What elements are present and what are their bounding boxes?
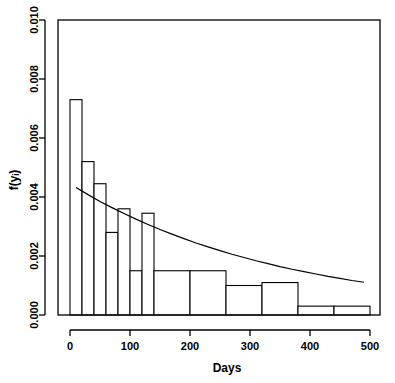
chart-canvas: 0100200300400500 0.0000.0020.0040.0060.0…: [0, 0, 395, 383]
x-axis-tick-label: 500: [361, 340, 379, 352]
x-axis-title: Days: [213, 361, 242, 375]
histogram-bar: [130, 271, 142, 315]
histogram-bar: [298, 306, 334, 315]
histogram-bar: [142, 213, 154, 315]
histogram-bar: [334, 306, 370, 315]
histogram-bar: [154, 271, 190, 315]
y-axis-tick-label: 0.010: [28, 6, 40, 34]
histogram-plot: 0100200300400500 0.0000.0020.0040.0060.0…: [0, 0, 395, 383]
y-axis-tick-label: 0.004: [28, 182, 40, 210]
x-axis-tick-label: 0: [67, 340, 73, 352]
plot-background: [0, 0, 395, 383]
histogram-bar: [106, 232, 118, 315]
histogram-bar: [226, 286, 262, 316]
y-axis-tick-label: 0.006: [28, 124, 40, 152]
y-axis-title: f(yᵢ): [7, 170, 21, 190]
y-axis-tick-label: 0.002: [28, 242, 40, 270]
histogram-bar: [190, 271, 226, 315]
x-axis-tick-label: 200: [181, 340, 199, 352]
x-axis-tick-label: 300: [241, 340, 259, 352]
histogram-bar: [82, 162, 94, 315]
histogram-bar: [262, 283, 298, 315]
y-axis-tick-label: 0.008: [28, 65, 40, 93]
histogram-bar: [70, 100, 82, 315]
x-axis-tick-label: 400: [301, 340, 319, 352]
x-axis-tick-label: 100: [121, 340, 139, 352]
y-axis-tick-label: 0.000: [28, 301, 40, 329]
histogram-bar: [118, 209, 130, 315]
